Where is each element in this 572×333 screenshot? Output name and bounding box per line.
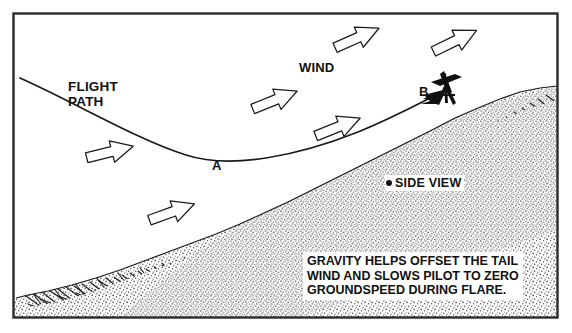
wind-arrow-1	[84, 136, 136, 169]
side-view-bullet-icon	[386, 180, 392, 186]
caption-line-1: GRAVITY HELPS OFFSET THE TAIL	[307, 254, 519, 269]
wind-arrow-4	[312, 108, 365, 146]
side-view-label-text: SIDE VIEW	[395, 176, 461, 190]
caption-line-3: GROUNDSPEED DURING FLARE.	[307, 283, 519, 298]
point-a-label: A	[212, 158, 222, 173]
diagram-canvas: FLIGHTPATH WIND A B SIDE VIEW GRAVITY HE…	[0, 0, 572, 333]
wind-arrow-5	[331, 18, 384, 58]
wind-arrow-3	[249, 81, 302, 119]
wind-arrow-2	[146, 193, 199, 230]
side-view-label: SIDE VIEW	[385, 175, 464, 191]
wind-arrow-6	[429, 21, 482, 62]
wind-label: WIND	[299, 60, 334, 75]
flight-path-label: FLIGHTPATH	[68, 79, 118, 109]
flight-path-label-line2: PATH	[68, 94, 104, 109]
point-b-label: B	[419, 84, 429, 99]
caption-line-2: WIND AND SLOWS PILOT TO ZERO	[307, 269, 519, 284]
flight-path-label-line1: FLIGHT	[68, 79, 118, 94]
caption-box: GRAVITY HELPS OFFSET THE TAIL WIND AND S…	[303, 252, 523, 300]
